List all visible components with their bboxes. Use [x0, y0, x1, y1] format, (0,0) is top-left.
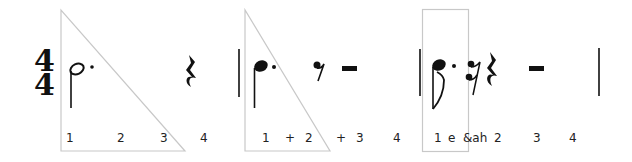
count-label: 2: [494, 131, 502, 145]
highlight-triangle-measure-2: [245, 10, 330, 151]
count-label: 3: [160, 131, 168, 145]
count-label: &ah: [463, 131, 487, 145]
dotted-eighth-note-icon: [430, 57, 456, 109]
count-label: 4: [569, 131, 577, 145]
count-label: e: [448, 131, 455, 145]
count-label: 2: [117, 131, 125, 145]
time-signature-bottom: 4: [34, 67, 55, 102]
sixteenth-rest-icon: [466, 61, 480, 95]
half-rest-icon: [342, 66, 357, 71]
counts-measure-1: 1 2 3 4: [66, 131, 208, 145]
highlight-rectangle-measure-3: [423, 10, 469, 152]
counts-measure-2: 1 + 2 + 3 4: [262, 131, 401, 145]
count-label: 1: [434, 131, 442, 145]
count-label: +: [336, 131, 346, 145]
eighth-rest-icon: [314, 62, 325, 82]
dotted-half-note-icon: [69, 62, 94, 108]
count-label: 1: [66, 131, 74, 145]
count-label: 3: [356, 131, 364, 145]
dotted-quarter-note-icon: [252, 58, 276, 108]
count-label: 4: [200, 131, 208, 145]
count-label: 1: [262, 131, 270, 145]
half-rest-icon: [529, 66, 544, 71]
counts-measure-3: 1 e &ah 2 3 4: [434, 131, 577, 145]
quarter-rest-icon: [186, 55, 196, 87]
count-label: 2: [305, 131, 313, 145]
count-label: 3: [533, 131, 541, 145]
count-label: +: [285, 131, 295, 145]
quarter-rest-icon: [487, 52, 497, 86]
highlight-triangle-measure-1: [61, 10, 185, 151]
count-label: 4: [393, 131, 401, 145]
rhythm-diagram: 4 4 1 2: [0, 0, 632, 162]
